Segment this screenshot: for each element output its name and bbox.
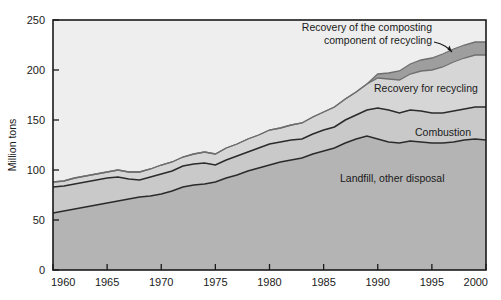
y-tick-label: 150 [27, 114, 45, 126]
x-tick-label: 1990 [366, 276, 390, 288]
series-label-landfill: Landfill, other disposal [340, 172, 444, 184]
y-tick-label: 0 [39, 264, 45, 276]
x-tick-label: 1975 [203, 276, 227, 288]
series-label-combustion: Combustion [415, 126, 471, 138]
series-label-recycling: Recovery for recycling [374, 82, 478, 94]
chart-container: 050100150200250 196019651970197519801985… [0, 0, 501, 300]
y-tick-label: 250 [27, 14, 45, 26]
composting-annotation-line1: Recovery of the composting [302, 21, 432, 33]
x-tick-label: 1985 [311, 276, 335, 288]
y-axis-title: Million tons [6, 119, 18, 172]
y-tick-label: 100 [27, 164, 45, 176]
y-tick-label: 50 [33, 214, 45, 226]
x-tick-label: 1970 [149, 276, 173, 288]
stacked-area-chart: 050100150200250 196019651970197519801985… [0, 0, 501, 300]
x-tick-label: 2000 [464, 276, 488, 288]
x-tick-label: 1980 [257, 276, 281, 288]
composting-annotation-line2: component of recycling [324, 34, 432, 46]
x-tick-label: 1965 [95, 276, 119, 288]
x-tick-label: 1960 [51, 276, 75, 288]
y-tick-label: 200 [27, 64, 45, 76]
x-tick-label: 1995 [420, 276, 444, 288]
